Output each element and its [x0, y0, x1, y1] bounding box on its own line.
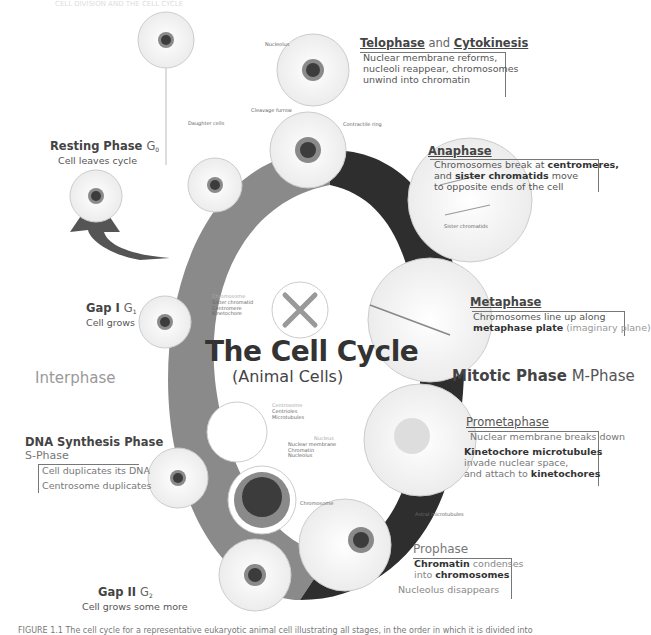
mitotic-phase-label: Mitotic Phase M-Phase — [452, 368, 635, 385]
metaphase-desc: Chromosomes line up along metaphase plat… — [473, 312, 651, 334]
telophase-title: Telophase and Cytokinesis — [360, 37, 528, 50]
chromosome-inset-labels: Chromosome Sister chromatid Centromere K… — [212, 294, 253, 317]
resting-phase-title: Resting Phase G0 — [50, 140, 159, 154]
gap2-desc: Cell grows some more — [82, 602, 188, 613]
astral-microtubules-label: Astral microtubules — [415, 512, 464, 518]
dna-synthesis-items: Cell duplicates its DNA Centrosome dupli… — [42, 466, 152, 492]
gap1-desc: Cell grows — [86, 318, 135, 329]
figure-caption: FIGURE 1.1 The cell cycle for a represen… — [18, 626, 533, 635]
interphase-label: Interphase — [35, 370, 115, 387]
nucleus-inset-labels: Nucleus Nuclear membrane Chromatin Nucle… — [288, 436, 336, 459]
telophase-desc: Nuclear membrane reforms, nucleoli reapp… — [363, 53, 519, 86]
resting-phase-desc: Cell leaves cycle — [58, 156, 137, 167]
nucleolus-label: Nucleolus — [265, 42, 289, 48]
cells — [70, 12, 532, 611]
centrosome-inset-labels: Centrosome Centrioles Microtubules — [272, 403, 304, 420]
dna-synthesis-sub: S-Phase — [25, 450, 69, 463]
diagram-subtitle: (Animal Cells) — [232, 368, 343, 386]
gap2-title: Gap II G2 — [98, 586, 153, 600]
diagram-title: The Cell Cycle — [205, 336, 418, 368]
daughter-cells-label: Daughter cells — [188, 121, 224, 127]
prometaphase-desc: Nuclear membrane breaks down Kinetochore… — [464, 432, 625, 480]
anaphase-title: Anaphase — [428, 145, 492, 158]
gap1-title: Gap I G1 — [86, 302, 136, 316]
metaphase-title: Metaphase — [470, 296, 541, 309]
cleavage-furrow-label: Cleavage furrow — [251, 108, 292, 114]
dna-synthesis-title: DNA Synthesis Phase — [25, 436, 163, 449]
chromosome-prophase-label: Chromosome — [300, 501, 333, 507]
sister-chromatids-label: Sister chromatids — [444, 224, 488, 230]
anaphase-desc: Chromosomes break at centromeres, and si… — [434, 160, 619, 193]
prometaphase-title: Prometaphase — [466, 416, 549, 429]
prophase-desc: Chromatin condenses into chromosomes Nuc… — [414, 559, 524, 596]
contractile-ring-label: Contractile ring — [343, 122, 382, 128]
prophase-title: Prophase — [413, 543, 468, 557]
